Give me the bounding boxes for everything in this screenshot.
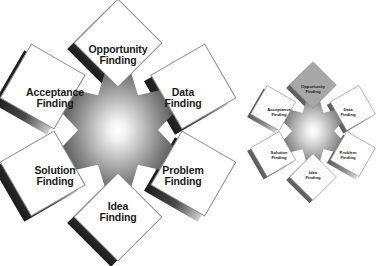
- thumbnail-star-diagram: OpportunityFindingDataFindingProblemFind…: [240, 0, 378, 266]
- figure-canvas: OpportunityFindingDataFindingProblemFind…: [0, 0, 378, 266]
- main-star-diagram: OpportunityFindingDataFindingProblemFind…: [0, 0, 240, 266]
- card-opportunity-finding[interactable]: [290, 62, 337, 109]
- main-diagram-artwork: [0, 0, 240, 266]
- thumbnail-diagram-artwork: [240, 0, 378, 266]
- card-opportunity-finding[interactable]: [74, 0, 162, 87]
